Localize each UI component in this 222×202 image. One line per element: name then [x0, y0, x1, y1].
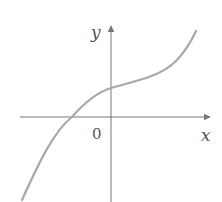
function-graph: y x 0: [0, 0, 222, 202]
origin-label: 0: [92, 125, 102, 143]
function-curve: [22, 31, 196, 200]
y-axis-label: y: [90, 22, 101, 42]
x-axis-label: x: [201, 125, 211, 145]
